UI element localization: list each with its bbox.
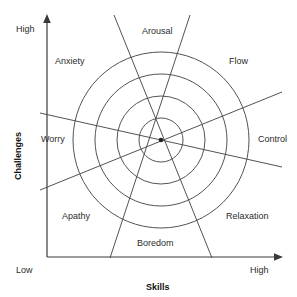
x-axis-high-label: High xyxy=(250,266,269,275)
diagram-canvas xyxy=(0,0,297,297)
state-label-arousal: Arousal xyxy=(142,27,173,36)
center-point xyxy=(159,138,164,143)
state-label-worry: Worry xyxy=(41,135,65,144)
state-label-control: Control xyxy=(258,135,287,144)
state-label-boredom: Boredom xyxy=(137,239,174,248)
spoke-group xyxy=(40,15,282,258)
y-axis-arrow-icon xyxy=(43,14,51,23)
y-axis-high-label: High xyxy=(16,25,35,34)
state-label-anxiety: Anxiety xyxy=(55,57,85,66)
flow-model-diagram: High Low High Challenges Skills Arousal … xyxy=(0,0,297,297)
state-label-apathy: Apathy xyxy=(62,212,90,221)
x-axis-title: Skills xyxy=(146,283,170,292)
x-axis-low-label: Low xyxy=(16,266,33,275)
y-axis-title: Challenges xyxy=(14,132,23,180)
state-label-relaxation: Relaxation xyxy=(226,212,269,221)
x-axis-arrow-icon xyxy=(274,253,283,261)
spoke-boredom-arousal xyxy=(110,15,190,258)
state-label-flow: Flow xyxy=(229,57,248,66)
